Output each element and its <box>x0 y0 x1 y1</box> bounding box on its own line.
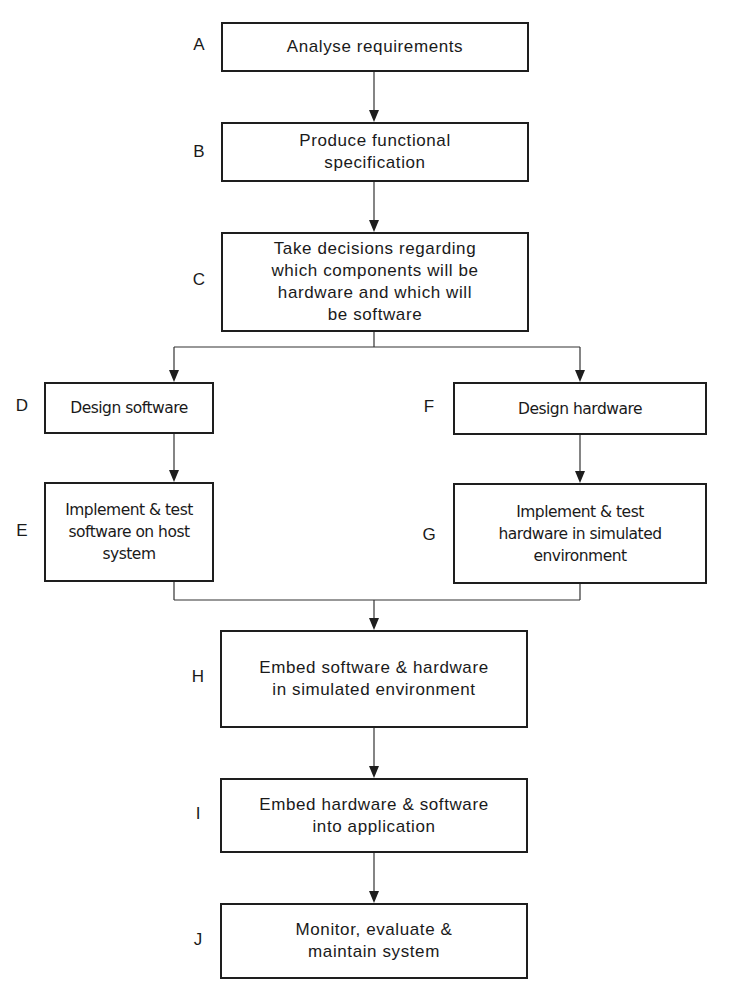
step-f-design-hardware: Design hardware <box>453 382 707 435</box>
step-j-monitor-maintain: Monitor, evaluate & maintain system <box>220 903 528 979</box>
step-h-embed-simulated: Embed software & hardware in simulated e… <box>220 630 528 728</box>
step-g-implement-test-hardware: Implement & test hardware in simulated e… <box>453 483 707 584</box>
step-j-text: Monitor, evaluate & maintain system <box>296 919 453 963</box>
step-a-analyse-requirements: Analyse requirements <box>221 22 529 72</box>
step-e-text: Implement & test software on host system <box>65 499 193 565</box>
step-b-text: Produce functional specification <box>299 130 451 174</box>
step-d-text: Design software <box>70 397 188 419</box>
step-label-d: D <box>12 396 32 416</box>
step-d-design-software: Design software <box>44 382 214 434</box>
step-label-i: I <box>188 804 208 824</box>
step-f-text: Design hardware <box>518 398 642 420</box>
step-label-f: F <box>419 397 439 417</box>
step-label-b: B <box>189 142 209 162</box>
step-c-hw-sw-decisions: Take decisions regarding which component… <box>221 232 529 332</box>
step-e-implement-test-software: Implement & test software on host system <box>44 482 214 582</box>
step-c-text: Take decisions regarding which component… <box>271 238 478 326</box>
step-label-h: H <box>188 667 208 687</box>
step-label-a: A <box>189 35 209 55</box>
step-b-functional-specification: Produce functional specification <box>221 122 529 182</box>
step-label-g: G <box>419 525 439 545</box>
step-h-text: Embed software & hardware in simulated e… <box>259 657 489 701</box>
step-i-embed-application: Embed hardware & software into applicati… <box>220 778 528 853</box>
step-label-j: J <box>188 930 208 950</box>
step-a-text: Analyse requirements <box>287 36 463 58</box>
step-label-e: E <box>12 521 32 541</box>
step-i-text: Embed hardware & software into applicati… <box>259 794 489 838</box>
step-g-text: Implement & test hardware in simulated e… <box>498 501 661 567</box>
step-label-c: C <box>189 270 209 290</box>
